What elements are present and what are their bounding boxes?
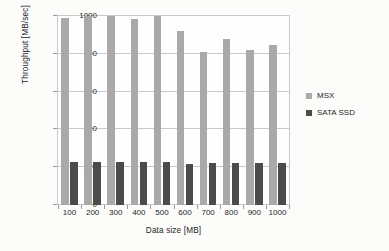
- y-tick-mark: [53, 128, 57, 129]
- bar-group: [81, 16, 104, 205]
- bar-sata-ssd-200: [93, 162, 101, 205]
- legend-item-sata-ssd: SATA SSD: [306, 109, 355, 117]
- bar-sata-ssd-800: [232, 163, 240, 205]
- bar-group: [104, 16, 127, 205]
- bar-group: [150, 16, 173, 205]
- bar-sata-ssd-300: [116, 162, 124, 205]
- x-axis-title: Data size [MB]: [57, 226, 290, 235]
- x-tick-mark: [289, 205, 290, 209]
- bar-sata-ssd-700: [209, 163, 217, 205]
- chart-legend: MSXSATA SSD: [306, 92, 355, 126]
- legend-label: MSX: [317, 92, 334, 100]
- legend-item-msx: MSX: [306, 92, 355, 100]
- bar-sata-ssd-400: [140, 162, 148, 205]
- legend-swatch-icon: [306, 110, 312, 116]
- bar-msx-200: [84, 16, 92, 205]
- y-tick-mark: [53, 91, 57, 92]
- bar-group: [127, 16, 150, 205]
- y-axis-title: Throughput [MB/sec]: [21, 0, 30, 130]
- y-tick-mark: [53, 204, 57, 205]
- legend-swatch-icon: [306, 93, 312, 99]
- y-tick-mark: [53, 53, 57, 54]
- bar-group: [243, 16, 266, 205]
- y-tick-mark: [53, 15, 57, 16]
- bar-msx-400: [131, 19, 139, 205]
- bar-group: [174, 16, 197, 205]
- bar-group: [266, 16, 289, 205]
- chart-figure: Throughput [MB/sec] 02004006008001000 10…: [0, 0, 389, 251]
- x-tick-mark: [58, 205, 59, 209]
- bar-msx-800: [223, 39, 231, 205]
- bar-group: [197, 16, 220, 205]
- bar-msx-500: [154, 16, 162, 205]
- bar-msx-600: [177, 31, 185, 205]
- bar-msx-100: [61, 18, 69, 205]
- bar-msx-1000: [269, 45, 277, 205]
- legend-label: SATA SSD: [317, 109, 355, 117]
- bar-msx-700: [200, 52, 208, 205]
- bar-group: [58, 16, 81, 205]
- bar-msx-300: [107, 16, 115, 205]
- bars-container: [58, 16, 289, 205]
- bar-sata-ssd-1000: [278, 163, 286, 205]
- bar-sata-ssd-600: [186, 164, 194, 205]
- bar-msx-900: [246, 50, 254, 205]
- y-tick-mark: [53, 166, 57, 167]
- bar-sata-ssd-500: [163, 162, 171, 205]
- x-tick-label: 1000: [257, 208, 297, 217]
- bar-sata-ssd-900: [255, 163, 263, 205]
- bar-group: [220, 16, 243, 205]
- bar-sata-ssd-100: [70, 162, 78, 205]
